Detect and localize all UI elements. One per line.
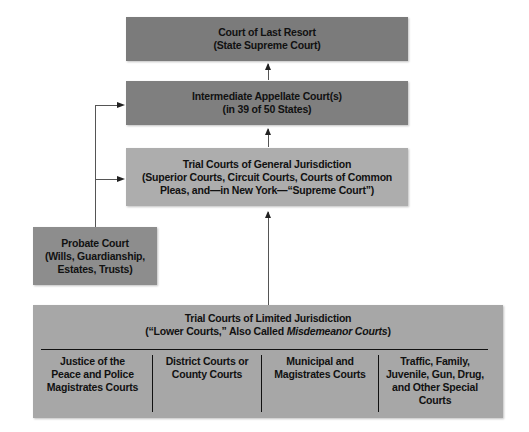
column-text-line: Courts [419,394,452,407]
probate-detail-line-2: Estates, Trusts) [58,263,133,276]
column-text-line: Traffic, Family, [400,355,470,368]
column-text-line: Magistrates Courts [274,368,366,381]
column-text-line: District Courts or [166,355,249,368]
connector-probate-vertical [95,105,96,227]
probate-title: Probate Court [61,237,128,250]
arrowhead-up-icon [265,128,271,135]
arrowhead-right-icon [117,176,125,182]
column-text-line: Municipal and [286,355,353,368]
horizontal-divider [41,349,488,350]
column-text-line: Magistrates Courts [47,381,139,394]
limited-subtitle-suffix: ) [387,325,390,337]
general-detail-line-1: (Superior Courts, Circuit Courts, Courts… [142,171,392,184]
trial-courts-limited-jurisdiction-box: Trial Courts of Limited Jurisdiction (“L… [33,305,503,418]
last-resort-title: Court of Last Resort [218,26,316,39]
limited-column-special-courts: Traffic, Family, Juvenile, Gun, Drug, an… [379,355,491,407]
limited-title: Trial Courts of Limited Jurisdiction [145,312,391,325]
connector-probate-to-appellate [95,105,119,106]
connector-limited-to-general [268,212,269,305]
intermediate-appellate-court-box: Intermediate Appellate Court(s) (in 39 o… [126,81,408,125]
appellate-subtitle: (in 39 of 50 States) [223,103,312,116]
connector-probate-to-general [95,179,119,180]
limited-header: Trial Courts of Limited Jurisdiction (“L… [145,312,391,338]
appellate-title: Intermediate Appellate Court(s) [192,90,342,103]
probate-detail-line-1: (Wills, Guardianship, [45,250,145,263]
column-text-line: Peace and Police [51,368,134,381]
probate-court-box: Probate Court (Wills, Guardianship, Esta… [33,227,157,285]
column-text-line: Juvenile, Gun, Drug, [386,368,484,381]
arrowhead-up-icon [265,63,271,70]
column-text-line: County Courts [172,368,242,381]
limited-subtitle-prefix: (“Lower Courts,” Also Called [145,325,286,337]
column-text-line: and Other Special [392,381,478,394]
column-text-line: Justice of the [60,355,125,368]
limited-column-municipal-magistrates: Municipal and Magistrates Courts [262,355,378,381]
trial-courts-general-jurisdiction-box: Trial Courts of General Jurisdiction (Su… [126,148,408,206]
arrowhead-up-icon [265,211,271,218]
limited-subtitle: (“Lower Courts,” Also Called Misdemeanor… [145,325,391,338]
general-detail-line-2: Pleas, and—in New York—“Supreme Court”) [160,184,374,197]
limited-column-justice-peace: Justice of the Peace and Police Magistra… [33,355,152,394]
limited-column-district-county: District Courts or County Courts [153,355,261,381]
arrowhead-right-icon [117,102,125,108]
last-resort-subtitle: (State Supreme Court) [213,39,320,52]
general-title: Trial Courts of General Jurisdiction [183,158,351,171]
limited-subtitle-italic: Misdemeanor Courts [287,325,388,337]
court-of-last-resort-box: Court of Last Resort (State Supreme Cour… [126,17,408,61]
